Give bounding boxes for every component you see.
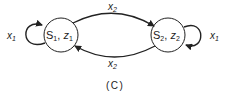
- self-loop-s2-label: x1: [209, 30, 219, 42]
- self-loop-s1: x1: [6, 24, 45, 44]
- transition-s1-s2: x2: [73, 1, 154, 26]
- state-s2: S2, z2: [151, 18, 185, 52]
- transition-s2-s1-label: x2: [107, 58, 117, 70]
- state-s1-label: S1, z1: [46, 29, 73, 42]
- transition-s2-s1: x2: [75, 46, 155, 70]
- state-s2-label: S2, z2: [153, 29, 180, 42]
- transition-s1-s2-label: x2: [107, 1, 117, 13]
- state-diagram: S1, z1 S2, z2 x1 x1 x2 x2 (C): [0, 0, 227, 99]
- caption: (C): [106, 80, 124, 91]
- self-loop-s2: x1: [184, 25, 219, 45]
- state-s1: S1, z1: [44, 18, 78, 52]
- self-loop-s1-label: x1: [6, 30, 16, 42]
